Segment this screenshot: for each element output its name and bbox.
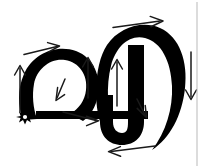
stroke-order-figure: Handwriting stroke order diagram Bold bl… xyxy=(0,0,204,168)
stroke-diagram-canvas xyxy=(0,0,204,168)
start-point-star-center xyxy=(23,115,27,119)
